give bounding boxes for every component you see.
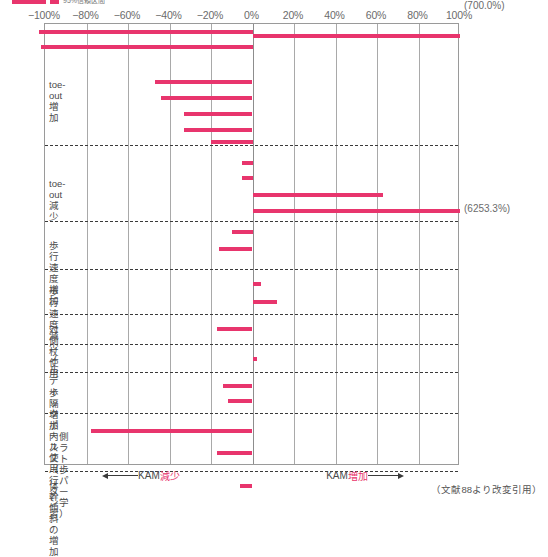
overflow-value-label: (6253.3%) bbox=[464, 203, 510, 214]
x-tick-80: 80% bbox=[407, 9, 427, 21]
bar bbox=[184, 112, 252, 116]
source-credit: （文献88より改変引用） bbox=[431, 482, 542, 496]
x-axis-tick-labels: −100%−80%−60%−40%−20%0%20%40%60%80%100% bbox=[0, 9, 548, 23]
kam-decrease-label: KAM 減少 bbox=[102, 468, 180, 483]
bar bbox=[211, 140, 253, 144]
x-tick--60: −60% bbox=[114, 9, 140, 21]
gridline--60 bbox=[128, 24, 129, 464]
gridline-80 bbox=[419, 24, 420, 464]
gridline-0 bbox=[253, 24, 254, 464]
bar bbox=[232, 230, 253, 234]
gridline--40 bbox=[170, 24, 171, 464]
bar bbox=[242, 161, 252, 165]
chart-plot-area: toe-out増加toe-out減少歩行速度増加歩行速度減少対側杖使用ノルディッ… bbox=[44, 23, 459, 465]
group-label: 歩隔増加 bbox=[49, 387, 59, 431]
bar bbox=[240, 484, 252, 488]
legend-label: 95%信頼区間 bbox=[63, 0, 105, 4]
overflow-value-label: (700.0%) bbox=[464, 0, 505, 11]
kam-right-highlight: 増加 bbox=[348, 468, 368, 483]
bar bbox=[223, 384, 252, 388]
bar bbox=[253, 209, 461, 213]
kam-increase-label: KAM 増加 bbox=[326, 468, 404, 483]
group-separator bbox=[45, 314, 458, 315]
gridline--20 bbox=[211, 24, 212, 464]
kam-left-highlight: 減少 bbox=[160, 468, 180, 483]
arrow-right-icon bbox=[398, 473, 404, 479]
x-tick-40: 40% bbox=[324, 9, 344, 21]
bar bbox=[253, 193, 384, 197]
group-label: toe-out増加 bbox=[49, 79, 65, 123]
bar bbox=[253, 357, 257, 361]
bar bbox=[39, 30, 253, 34]
x-tick--20: −20% bbox=[197, 9, 223, 21]
gridline-60 bbox=[377, 24, 378, 464]
bar bbox=[217, 327, 252, 331]
legend-swatch-secondary bbox=[50, 0, 59, 4]
legend-swatch bbox=[12, 0, 46, 4]
bar bbox=[161, 96, 252, 100]
group-label: 体幹傾斜の増加 bbox=[49, 480, 59, 557]
bar bbox=[242, 176, 252, 180]
group-separator bbox=[45, 372, 458, 373]
group-separator bbox=[45, 413, 458, 414]
bar bbox=[184, 128, 252, 132]
x-tick--40: −40% bbox=[155, 9, 181, 21]
kam-left-prefix: KAM bbox=[138, 470, 160, 481]
kam-right-prefix: KAM bbox=[326, 470, 348, 481]
group-label: toe-out減少 bbox=[49, 178, 65, 222]
gridline-40 bbox=[336, 24, 337, 464]
group-separator bbox=[45, 145, 458, 146]
bar bbox=[91, 429, 253, 433]
x-tick--100: −100% bbox=[28, 9, 60, 21]
bar bbox=[41, 45, 253, 49]
x-tick-0: 0% bbox=[244, 9, 259, 21]
group-separator bbox=[45, 269, 458, 270]
bar bbox=[228, 399, 253, 403]
bar bbox=[155, 80, 253, 84]
group-separator bbox=[45, 221, 458, 222]
bar bbox=[219, 247, 252, 251]
gridline-20 bbox=[294, 24, 295, 464]
gridline--80 bbox=[87, 24, 88, 464]
bar bbox=[253, 282, 261, 286]
bar bbox=[217, 451, 252, 455]
x-tick-60: 60% bbox=[366, 9, 386, 21]
x-tick--80: −80% bbox=[72, 9, 98, 21]
legend: 95%信頼区間 bbox=[12, 0, 105, 4]
x-tick-20: 20% bbox=[283, 9, 303, 21]
bar bbox=[253, 300, 278, 304]
bar bbox=[253, 34, 461, 38]
group-separator bbox=[45, 344, 458, 345]
